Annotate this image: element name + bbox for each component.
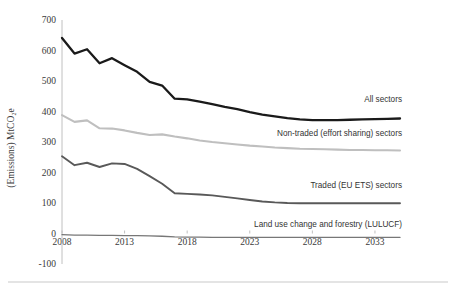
y-tick-label: -100 [39,259,57,269]
y-axis-title: (Emissions) MtCO₂e [6,108,17,188]
y-tick-label: 200 [42,168,57,178]
series-label-all-sectors: All sectors [364,95,402,104]
y-tick-label: 400 [42,107,57,117]
y-tick-label: 300 [42,137,57,147]
x-tick-label: 2013 [115,237,134,247]
series-label-traded-eu-ets-sectors: Traded (EU ETS) sectors [310,181,402,190]
y-tick-label: 100 [42,198,57,208]
chart-canvas: -1000100200300400500600700 2008201320182… [0,0,453,294]
series-label-land-use-change-and-forestry-lulucf: Land use change and forestry (LULUCF) [254,220,402,229]
series-label-non-traded-effort-sharing-sectors: Non-traded (effort sharing) sectors [277,129,402,138]
y-tick-label: 500 [42,76,57,86]
emissions-line-chart: -1000100200300400500600700 2008201320182… [0,0,453,294]
y-tick-label: 700 [42,15,57,25]
x-tick-label: 2018 [178,237,197,247]
y-tick-label: 600 [42,46,57,56]
